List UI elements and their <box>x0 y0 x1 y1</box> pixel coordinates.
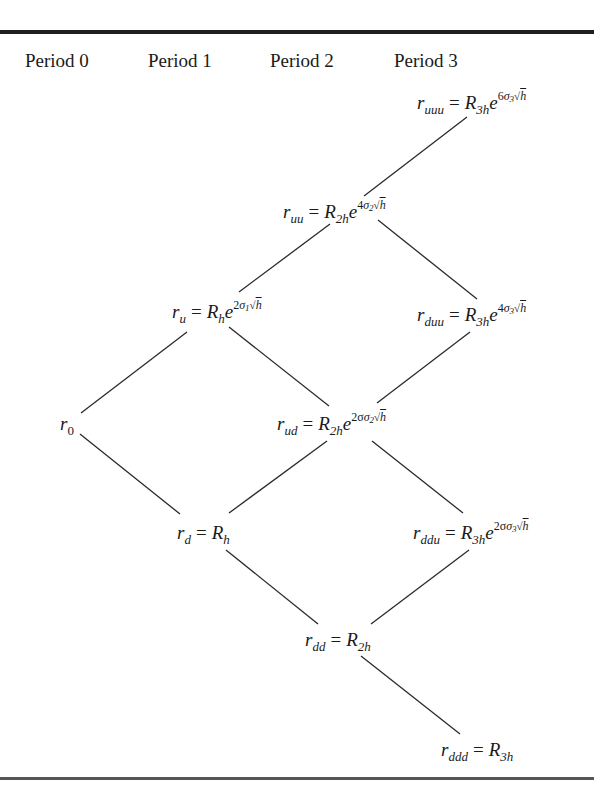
edge-ud-d <box>229 441 327 513</box>
node-r-ud: rud=R2he2σσ2√h <box>277 414 386 433</box>
edge-r0-d <box>80 434 180 514</box>
node-r-uu: ruu=R2he4σ2√h <box>283 202 386 221</box>
edge-u-uu <box>239 224 330 292</box>
edge-dd-ddd <box>361 656 460 734</box>
bottom-rule <box>0 777 594 780</box>
edge-r0-u <box>81 332 187 413</box>
node-r-u: ru=Rhe2σ1√h <box>172 302 262 321</box>
node-r-ddu: rddu=R3he2σσ3√h <box>413 523 529 542</box>
node-r-d: rd=Rh <box>177 523 230 542</box>
node-r-uuu: ruuu=R3he6σ3√h <box>417 93 526 112</box>
edge-ud-duu <box>377 332 470 403</box>
node-r-duu: rduu=R3he4σ3√h <box>417 305 526 324</box>
node-r-ddd: rddd=R3h <box>441 740 513 759</box>
edge-uu-uuu <box>364 117 467 196</box>
edge-ddu-dd <box>371 550 469 624</box>
node-r-0: r0 <box>60 414 74 433</box>
node-r-dd: rdd=R2h <box>305 630 371 649</box>
edge-d-dd <box>226 550 318 624</box>
edge-u-ud <box>229 327 329 406</box>
tree-edges <box>0 0 594 800</box>
edge-uu-duu <box>378 220 477 299</box>
edge-ud-ddu <box>372 441 463 513</box>
